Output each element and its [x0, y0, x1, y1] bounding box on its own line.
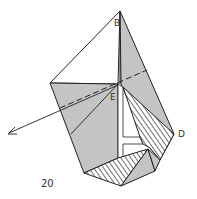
label-d: D — [178, 130, 185, 139]
origami-diagram — [0, 0, 197, 199]
label-e: E — [110, 93, 116, 102]
left-body — [50, 83, 118, 173]
label-b: B — [114, 19, 120, 28]
white-flap — [50, 11, 120, 84]
step-number: 20 — [41, 179, 54, 189]
